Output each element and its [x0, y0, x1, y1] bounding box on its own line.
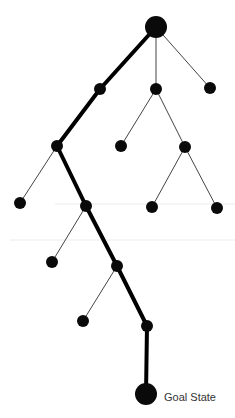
- tree-node: [115, 140, 127, 152]
- solution-path-edge: [117, 266, 147, 326]
- solution-path-edge: [86, 206, 117, 266]
- tree-node: [94, 83, 106, 95]
- solution-path-edge: [57, 146, 86, 206]
- goal-node: [135, 383, 157, 405]
- tree-node: [14, 197, 26, 209]
- solution-path-edge: [57, 89, 100, 146]
- tree-node: [80, 200, 92, 212]
- guide-lines: [10, 204, 235, 240]
- tree-node: [204, 82, 216, 94]
- tree-node: [141, 320, 153, 332]
- tree-node: [179, 141, 191, 153]
- tree-edge: [83, 266, 117, 321]
- tree-edge: [156, 89, 185, 147]
- search-tree-diagram: [0, 0, 235, 418]
- tree-node: [211, 202, 223, 214]
- goal-state-label: Goal State: [164, 391, 216, 403]
- tree-node: [51, 140, 63, 152]
- root-node: [145, 16, 167, 38]
- tree-edge: [185, 147, 217, 208]
- tree-edges: [20, 27, 217, 394]
- tree-edge: [20, 146, 57, 203]
- tree-edge: [121, 89, 156, 146]
- tree-edge: [152, 147, 185, 207]
- tree-node: [150, 83, 162, 95]
- tree-node: [77, 315, 89, 327]
- tree-node: [46, 256, 58, 268]
- tree-edge: [156, 27, 210, 88]
- tree-edge: [52, 206, 86, 262]
- tree-nodes: [14, 16, 223, 405]
- solution-path-edge: [100, 27, 156, 89]
- tree-node: [146, 201, 158, 213]
- tree-node: [111, 260, 123, 272]
